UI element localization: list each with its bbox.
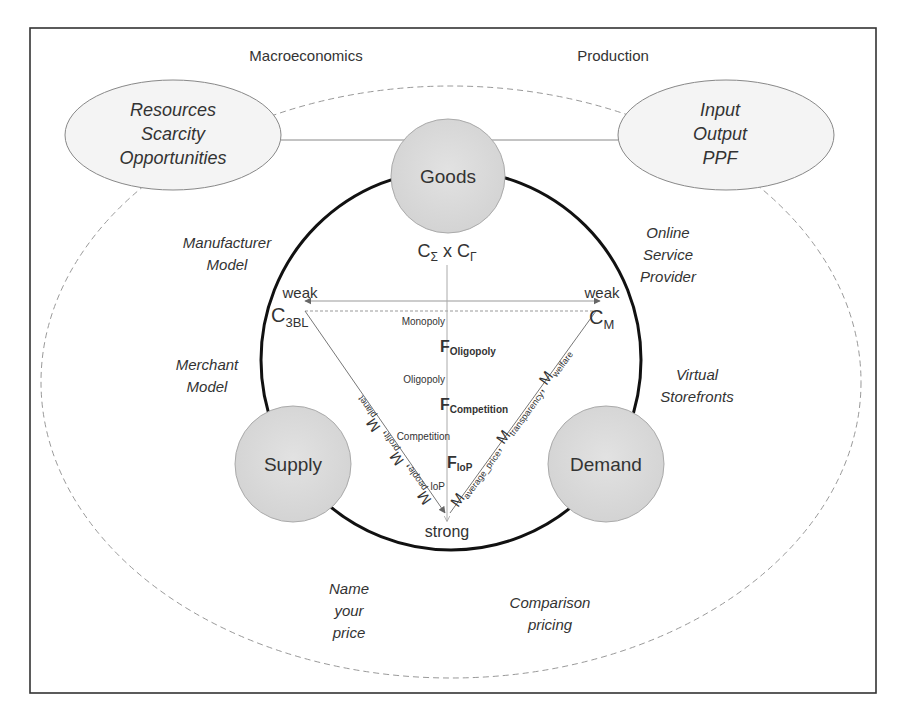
demand-node: Demand bbox=[548, 406, 664, 522]
strong-label: strong bbox=[425, 523, 469, 540]
scarcity-label: Scarcity bbox=[141, 124, 206, 144]
opportunities-label: Opportunities bbox=[119, 148, 226, 168]
production-ellipse: Input Output PPF bbox=[618, 80, 834, 190]
goods-node: Goods bbox=[391, 119, 505, 233]
goods-label: Goods bbox=[420, 166, 476, 187]
svg-text:Storefronts: Storefronts bbox=[660, 388, 734, 405]
svg-text:Service: Service bbox=[643, 246, 693, 263]
resources-label: Resources bbox=[130, 100, 216, 120]
online-service-provider-label: Online Service Provider bbox=[640, 224, 697, 285]
name-your-price-label: Name your price bbox=[329, 580, 369, 641]
svg-text:price: price bbox=[332, 624, 366, 641]
svg-text:Model: Model bbox=[207, 256, 249, 273]
lop-label: loP bbox=[431, 481, 446, 492]
svg-text:Name: Name bbox=[329, 580, 369, 597]
supply-label: Supply bbox=[264, 454, 323, 475]
svg-text:pricing: pricing bbox=[527, 616, 573, 633]
oligopoly-label: Oligopoly bbox=[403, 374, 445, 385]
output-label: Output bbox=[693, 124, 748, 144]
market-model-diagram: Resources Scarcity Opportunities Input O… bbox=[0, 0, 900, 714]
production-label: Production bbox=[577, 47, 649, 64]
weak-right-label: weak bbox=[583, 284, 620, 301]
weak-left-label: weak bbox=[281, 284, 318, 301]
macroeconomics-label: Macroeconomics bbox=[249, 47, 362, 64]
resources-ellipse: Resources Scarcity Opportunities bbox=[65, 80, 281, 190]
svg-text:Model: Model bbox=[187, 378, 229, 395]
svg-text:Online: Online bbox=[646, 224, 689, 241]
svg-text:Provider: Provider bbox=[640, 268, 697, 285]
svg-text:Merchant: Merchant bbox=[176, 356, 239, 373]
supply-node: Supply bbox=[235, 406, 351, 522]
monopoly-label: Monopoly bbox=[402, 316, 445, 327]
svg-text:Manufacturer: Manufacturer bbox=[183, 234, 272, 251]
svg-text:your: your bbox=[333, 602, 364, 619]
competition-label: Competition bbox=[397, 431, 450, 442]
ppf-label: PPF bbox=[702, 148, 738, 168]
input-label: Input bbox=[700, 100, 741, 120]
demand-label: Demand bbox=[570, 454, 642, 475]
svg-text:Comparison: Comparison bbox=[510, 594, 591, 611]
svg-text:Virtual: Virtual bbox=[676, 366, 719, 383]
top-formula: CΣ x CΓ bbox=[417, 241, 476, 264]
